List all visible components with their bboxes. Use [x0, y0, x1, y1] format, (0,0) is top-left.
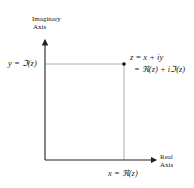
x-projection-label: x = ℜ(z)	[108, 169, 138, 177]
real-axis-label-line1: Real	[160, 153, 173, 161]
imaginary-axis-label-line2: Axis	[32, 23, 61, 31]
point-label-line1: z = x + iy	[130, 53, 163, 61]
imaginary-axis-label-line1: Imaginary	[32, 15, 61, 23]
real-axis-label-line2: Axis	[160, 161, 173, 169]
real-axis-label: Real Axis	[160, 153, 173, 169]
point-label-line2: = ℜ(z) + iℑ(z)	[134, 65, 185, 73]
imaginary-axis-label: Imaginary Axis	[32, 15, 61, 31]
point-z	[122, 62, 126, 66]
y-projection-label: y = ℑ(z)	[8, 59, 37, 67]
